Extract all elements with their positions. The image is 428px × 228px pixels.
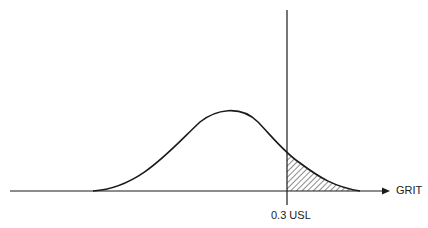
x-axis-arrow-icon [382, 188, 390, 195]
x-axis-label: GRIT [396, 184, 422, 196]
usl-label: 0.3 USL [271, 209, 311, 221]
distribution-diagram [0, 0, 428, 228]
